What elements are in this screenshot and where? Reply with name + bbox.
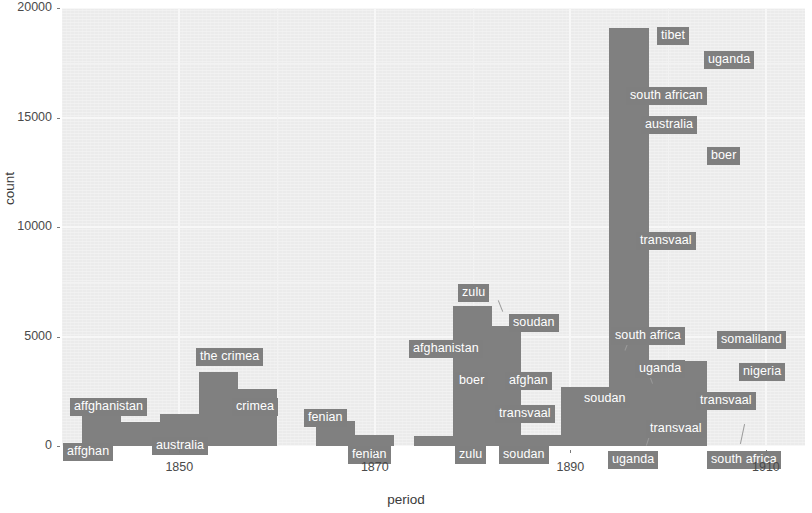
data-label: soudan: [580, 390, 630, 408]
y-tick-label: 20000: [0, 0, 52, 14]
data-label: australia: [641, 116, 697, 134]
data-label: boer: [455, 372, 488, 390]
y-tick-label: 5000: [0, 329, 52, 343]
x-tick-label: 1850: [149, 460, 209, 474]
data-label: fenian: [304, 409, 347, 427]
x-axis-title: period: [0, 492, 812, 507]
gridline-vertical: [569, 8, 571, 446]
gridline-horizontal-minor: [62, 282, 805, 283]
gridline-vertical: [178, 8, 180, 446]
gridline-horizontal: [62, 336, 805, 338]
gridline-horizontal-minor: [62, 172, 805, 173]
data-label: uganda: [635, 360, 685, 378]
x-tick-mark: [766, 450, 767, 453]
data-label: afghanistan: [409, 340, 483, 358]
bar: [355, 435, 394, 446]
bar: [521, 435, 560, 446]
x-tick-label: 1870: [345, 460, 405, 474]
y-tick-mark: [57, 118, 60, 119]
bar: [414, 436, 453, 446]
x-tick-mark: [179, 450, 180, 453]
y-tick-label: 0: [0, 438, 52, 452]
data-label: transvaal: [636, 232, 696, 250]
plot-panel: [62, 8, 805, 446]
x-tick-label: 1910: [736, 460, 796, 474]
leader-line: [740, 424, 745, 444]
data-label: transvaal: [646, 420, 706, 438]
data-label: crimea: [232, 398, 278, 416]
data-label: transvaal: [495, 405, 555, 423]
y-tick-mark: [57, 227, 60, 228]
data-label: tibet: [657, 27, 689, 45]
data-label: zulu: [458, 284, 489, 302]
data-label: transvaal: [696, 392, 756, 410]
gridline-vertical-minor: [277, 8, 278, 446]
data-label: zulu: [455, 446, 486, 464]
y-tick-label: 10000: [0, 219, 52, 233]
data-label: south africa: [611, 327, 685, 345]
data-label: uganda: [608, 451, 658, 469]
gridline-horizontal: [62, 8, 805, 9]
data-label: the crimea: [196, 348, 263, 366]
chart-figure: affghanistanaffghanaustraliathe crimeacr…: [0, 0, 812, 513]
y-tick-mark: [57, 8, 60, 9]
x-tick-mark: [570, 450, 571, 453]
y-tick-mark: [57, 337, 60, 338]
gridline-vertical: [374, 8, 376, 446]
data-label: south african: [626, 87, 707, 105]
leader-line: [498, 300, 503, 312]
y-axis-title: count: [2, 172, 17, 205]
y-tick-mark: [57, 446, 60, 447]
data-label: soudan: [509, 314, 559, 332]
data-label: boer: [707, 147, 740, 165]
x-tick-mark: [375, 450, 376, 453]
data-label: afghan: [505, 372, 552, 390]
x-tick-label: 1890: [540, 460, 600, 474]
data-label: affghan: [63, 443, 113, 461]
data-label: somaliland: [717, 331, 786, 349]
data-label: nigeria: [739, 363, 785, 381]
gridline-horizontal-minor: [62, 63, 805, 64]
gridline-horizontal: [62, 226, 805, 228]
data-label: affghanistan: [70, 398, 147, 416]
data-label: uganda: [704, 51, 754, 69]
y-tick-label: 15000: [0, 110, 52, 124]
